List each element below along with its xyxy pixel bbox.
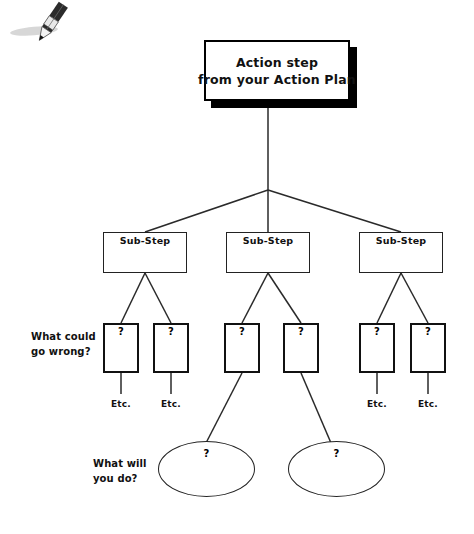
prompt-wcgw-line-2: go wrong? bbox=[31, 344, 96, 359]
pencil-icon bbox=[0, 0, 92, 60]
question-box-1: ? bbox=[103, 323, 139, 373]
prompt-wwyd-line-2: you do? bbox=[93, 471, 147, 486]
substep-box-2: Sub-Step bbox=[226, 232, 310, 273]
substep-label-2: Sub-Step bbox=[227, 235, 309, 246]
substep-box-1: Sub-Step bbox=[103, 232, 187, 273]
etc-label-1: Etc. bbox=[99, 399, 143, 409]
prompt-wcgw-line-1: What could bbox=[31, 329, 96, 344]
title-line-2: from your Action Plan bbox=[198, 71, 356, 88]
prompt-what-will-you-do: What will you do? bbox=[93, 456, 147, 486]
question-mark-5: ? bbox=[361, 326, 393, 337]
etc-label-3: Etc. bbox=[355, 399, 399, 409]
question-box-6: ? bbox=[410, 323, 446, 373]
diagram-canvas: Action step from your Action Plan Sub-St… bbox=[0, 0, 474, 534]
prompt-wwyd-line-1: What will bbox=[93, 456, 147, 471]
question-mark-6: ? bbox=[412, 326, 444, 337]
title-box: Action step from your Action Plan bbox=[204, 40, 350, 101]
substep-label-1: Sub-Step bbox=[104, 235, 186, 246]
oval-question-mark-2: ? bbox=[289, 448, 384, 459]
question-mark-2: ? bbox=[155, 326, 187, 337]
oval-question-mark-1: ? bbox=[159, 448, 254, 459]
question-mark-4: ? bbox=[285, 326, 317, 337]
question-mark-1: ? bbox=[105, 326, 137, 337]
etc-label-2: Etc. bbox=[149, 399, 193, 409]
substep-label-3: Sub-Step bbox=[360, 235, 442, 246]
question-box-4: ? bbox=[283, 323, 319, 373]
question-box-2: ? bbox=[153, 323, 189, 373]
prompt-what-could-go-wrong: What could go wrong? bbox=[31, 329, 96, 359]
substep-box-3: Sub-Step bbox=[359, 232, 443, 273]
question-mark-3: ? bbox=[226, 326, 258, 337]
question-box-3: ? bbox=[224, 323, 260, 373]
oval-1: ? bbox=[158, 441, 255, 497]
question-box-5: ? bbox=[359, 323, 395, 373]
etc-label-4: Etc. bbox=[406, 399, 450, 409]
title-line-1: Action step bbox=[236, 54, 318, 71]
oval-2: ? bbox=[288, 441, 385, 497]
